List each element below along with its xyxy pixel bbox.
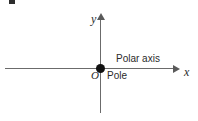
y-axis-label: y bbox=[91, 13, 96, 25]
cropped-figure-label-artifact bbox=[9, 0, 15, 4]
polar-axis-label: Polar axis bbox=[116, 54, 160, 64]
x-axis-arrowhead-icon bbox=[173, 65, 180, 73]
origin-label: O bbox=[91, 70, 99, 81]
horizontal-axis-line bbox=[5, 68, 175, 69]
x-axis-label: x bbox=[184, 66, 189, 78]
pole-label: Pole bbox=[107, 71, 127, 81]
polar-coordinate-figure: y x O Pole Polar axis bbox=[0, 0, 198, 121]
y-axis-arrowhead-icon bbox=[97, 13, 105, 20]
